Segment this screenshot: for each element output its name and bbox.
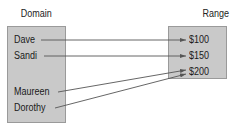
- arrow-maureen-200: [58, 70, 186, 92]
- mapping-arrows: [0, 0, 234, 131]
- arrow-dorothy-200: [55, 74, 186, 108]
